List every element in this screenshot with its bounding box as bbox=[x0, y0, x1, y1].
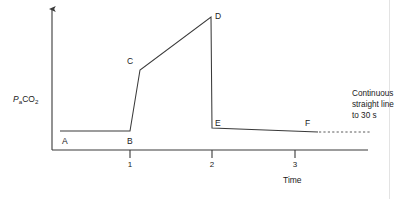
annotation-line-1: Continuous bbox=[352, 89, 408, 100]
y-axis-label-a: a bbox=[19, 98, 22, 105]
point-label-b: B bbox=[127, 137, 133, 146]
annotation-line-3: to 30 s bbox=[352, 111, 408, 122]
paco2-trace bbox=[60, 17, 318, 132]
y-axis-label-co: CO bbox=[22, 94, 35, 104]
point-label-d: D bbox=[215, 12, 221, 21]
chart-figure: PaCO2 Time 1 2 3 A B C D E F Continuous … bbox=[0, 0, 413, 199]
x-axis-label: Time bbox=[283, 176, 302, 185]
point-label-f: F bbox=[305, 119, 310, 128]
x-tick-label-2: 2 bbox=[205, 161, 219, 169]
annotation-line-2: straight line bbox=[352, 100, 408, 111]
x-tick-label-1: 1 bbox=[123, 161, 137, 169]
y-axis-label-p: P bbox=[13, 94, 19, 104]
continuation-annotation: Continuous straight line to 30 s bbox=[352, 89, 408, 121]
y-axis-label: PaCO2 bbox=[13, 95, 38, 104]
x-tick-label-3: 3 bbox=[288, 161, 302, 169]
y-axis-label-two: 2 bbox=[35, 98, 38, 105]
point-label-a: A bbox=[62, 137, 68, 146]
point-label-e: E bbox=[215, 119, 221, 128]
point-label-c: C bbox=[127, 57, 133, 66]
